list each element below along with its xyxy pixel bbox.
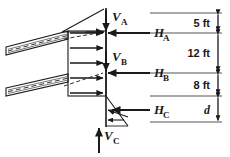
force-VA-subscript: A (121, 17, 128, 27)
lower-strut (6, 74, 68, 96)
lower-strut-body (6, 74, 68, 96)
force-HB-subscript: B (163, 73, 169, 83)
force-HA: H A (108, 25, 170, 43)
force-HC-subscript: C (163, 110, 170, 120)
dimension-label-12ft: 12 ft (187, 47, 210, 59)
force-VB-subscript: B (121, 57, 127, 67)
top-wedge-hypotenuse (62, 9, 104, 32)
upper-strut (6, 31, 68, 55)
force-VC: V C (99, 128, 120, 153)
force-VB: V B (106, 49, 127, 71)
lower-strut-projection-dashed (64, 73, 103, 86)
force-HB: H B (108, 65, 169, 83)
dimension-labels: 5 ft 12 ft 8 ft d (187, 17, 211, 117)
diagram-canvas: 5 ft 12 ft 8 ft d (0, 0, 230, 157)
upper-strut-body (6, 31, 68, 55)
bottom-wedge-arrow-upper (108, 110, 128, 117)
dimension-label-5ft: 5 ft (194, 17, 211, 29)
pressure-arrows (70, 33, 103, 93)
force-HA-subscript: A (163, 33, 170, 43)
dimension-label-8ft: 8 ft (194, 79, 211, 91)
dimension-label-d: d (204, 103, 211, 117)
force-VC-subscript: C (113, 136, 120, 146)
force-VA: V A (106, 9, 128, 31)
structural-diagram-figure: 5 ft 12 ft 8 ft d (0, 0, 230, 157)
lower-strut-projection (64, 73, 103, 86)
force-HC: H C (112, 102, 170, 120)
